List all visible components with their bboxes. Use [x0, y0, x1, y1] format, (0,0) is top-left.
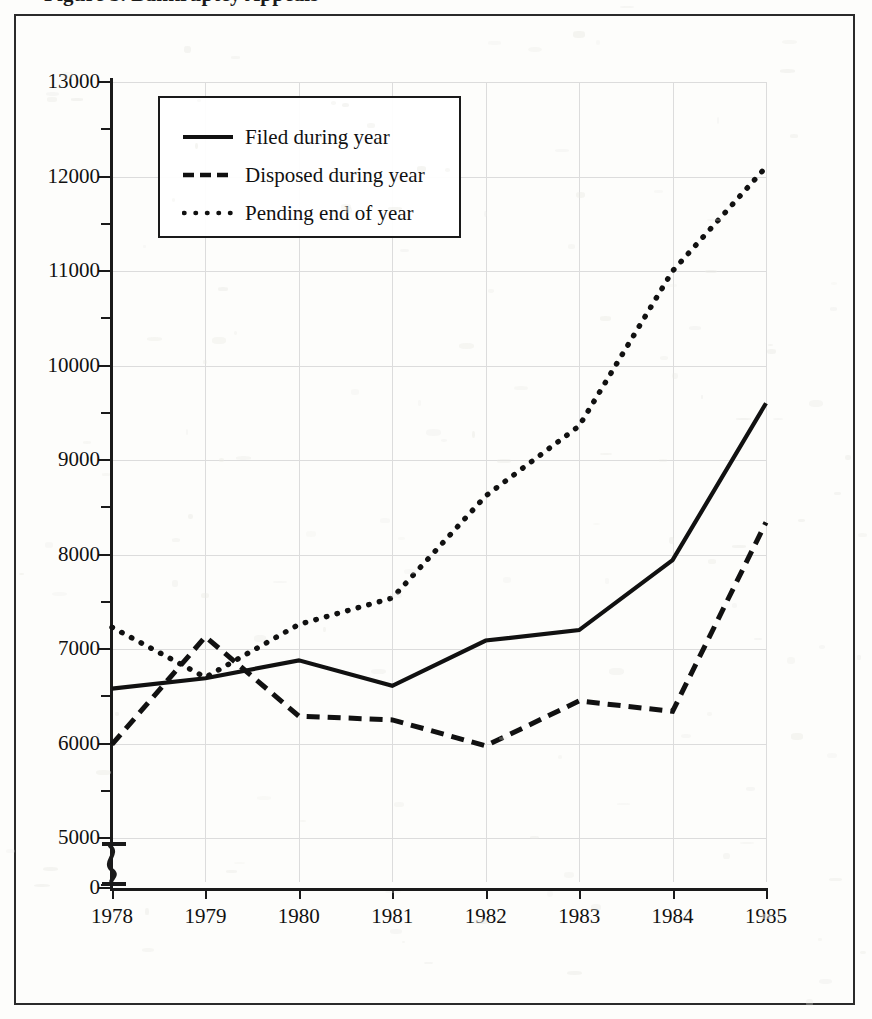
scan-artifact	[818, 938, 822, 941]
scan-artifact	[404, 569, 416, 574]
scan-artifact	[236, 456, 252, 459]
scan-artifact	[723, 853, 730, 859]
figure-title-text: Figure 3. Bankruptcy Appeals	[0, 0, 872, 7]
scan-artifact	[609, 668, 624, 675]
scan-artifact	[254, 635, 266, 642]
scan-artifact	[791, 733, 803, 740]
x-axis-tick	[392, 888, 394, 899]
scan-artifact	[459, 343, 474, 349]
scan-artifact	[201, 593, 208, 598]
series-line-dashed	[112, 522, 766, 745]
x-axis-tick	[766, 888, 768, 899]
legend-entry-filed: Filed during year	[182, 118, 459, 156]
series-line-solid	[112, 403, 766, 688]
scan-artifact	[573, 31, 585, 37]
scan-artifact	[564, 872, 574, 878]
scan-artifact	[184, 46, 190, 53]
scan-artifact	[417, 166, 426, 171]
scan-artifact	[306, 531, 316, 537]
scan-artifact	[45, 542, 54, 548]
scan-artifact	[717, 117, 719, 124]
y-axis-tick-minor	[101, 790, 111, 792]
scan-artifact	[600, 316, 611, 321]
scan-artifact	[819, 979, 831, 984]
scan-artifact	[593, 523, 600, 525]
scan-artifact	[226, 870, 236, 873]
scan-artifact	[394, 802, 404, 807]
scan-artifact	[96, 770, 111, 775]
scan-artifact	[71, 98, 83, 101]
y-axis-label: 8000	[0, 544, 106, 565]
scan-artifact	[806, 999, 813, 1005]
scan-artifact	[172, 580, 178, 587]
scan-artifact	[499, 737, 507, 739]
scan-artifact	[186, 429, 188, 435]
scan-artifact	[736, 418, 751, 420]
scan-artifact	[300, 820, 306, 822]
scan-artifact	[60, 72, 74, 78]
scan-artifact	[345, 207, 351, 212]
y-axis-tick-minor	[101, 317, 111, 319]
scan-artifact	[97, 733, 99, 736]
legend-entry-pending: Pending end of year	[182, 194, 459, 232]
legend-label-disposed: Disposed during year	[245, 165, 425, 186]
scan-artifact	[398, 537, 406, 540]
scan-artifact	[351, 389, 359, 394]
scan-artifact	[707, 712, 712, 716]
scan-artifact	[488, 289, 493, 293]
x-axis-label: 1980	[259, 906, 339, 927]
scan-artifact	[555, 149, 569, 152]
scan-artifact	[732, 603, 736, 608]
scan-artifact	[528, 47, 542, 53]
scan-artifact	[424, 962, 432, 965]
scan-artifact	[445, 168, 451, 172]
scan-artifact	[819, 645, 825, 649]
scan-artifact	[681, 734, 691, 739]
y-axis-label: 13000	[0, 71, 106, 92]
scan-artifact	[860, 951, 866, 954]
scan-artifact	[567, 971, 581, 975]
scan-artifact	[568, 244, 576, 248]
scan-artifact	[845, 455, 851, 460]
scan-artifact	[654, 190, 663, 193]
dotted-line-icon	[182, 206, 234, 220]
scan-artifact	[43, 867, 58, 871]
scan-artifact	[790, 134, 799, 138]
scan-artifact	[197, 99, 201, 102]
grid-line-vertical	[766, 82, 767, 882]
scan-artifact	[591, 904, 601, 911]
series-line-dotted	[112, 167, 766, 677]
scan-artifact	[659, 459, 667, 462]
scan-artifact	[767, 349, 776, 354]
y-axis-label: 7000	[0, 638, 106, 659]
scan-artifact	[371, 669, 386, 674]
scan-artifact	[759, 914, 773, 920]
x-axis-label: 1979	[165, 906, 245, 927]
scan-artifact	[503, 577, 511, 582]
dashed-line-icon	[182, 168, 234, 182]
y-axis-tick-minor	[101, 412, 111, 414]
scan-artifact	[19, 573, 24, 575]
x-axis-label: 1981	[352, 906, 432, 927]
scan-artifact	[143, 245, 146, 248]
x-axis-label: 1984	[633, 906, 713, 927]
scan-artifact	[809, 400, 823, 407]
scan-artifact	[388, 207, 402, 210]
scan-artifact	[102, 473, 110, 476]
scan-artifact	[331, 101, 336, 105]
x-axis-tick	[486, 888, 488, 899]
scan-artifact	[83, 441, 91, 444]
legend-label-filed: Filed during year	[245, 127, 390, 148]
scan-artifact	[830, 307, 837, 310]
scan-artifact	[145, 908, 148, 914]
scan-artifact	[367, 123, 375, 127]
scan-artifact	[732, 545, 747, 548]
scan-artifact	[605, 578, 609, 584]
scan-artifact	[547, 891, 553, 897]
scan-artifact	[390, 593, 402, 598]
scan-artifact	[52, 592, 66, 596]
scan-artifact	[400, 249, 409, 252]
y-axis-label: 6000	[0, 733, 106, 754]
scan-artifact	[47, 97, 57, 101]
scan-artifact	[34, 884, 50, 887]
